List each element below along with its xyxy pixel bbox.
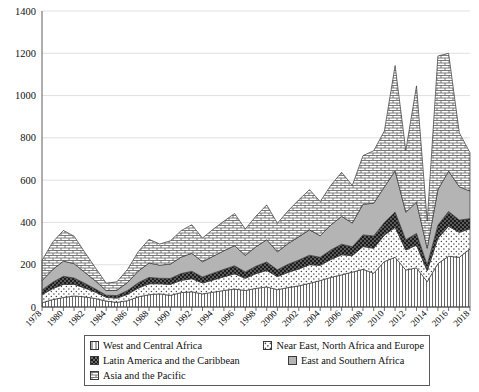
svg-text:2014: 2014: [409, 308, 429, 328]
legend-label: West and Central Africa: [103, 340, 202, 351]
svg-text:2008: 2008: [344, 308, 364, 328]
svg-text:1000: 1000: [15, 90, 36, 101]
svg-text:1994: 1994: [195, 308, 215, 328]
svg-text:600: 600: [20, 175, 36, 186]
svg-text:1200: 1200: [15, 48, 36, 59]
svg-text:200: 200: [20, 259, 36, 270]
svg-text:1992: 1992: [173, 308, 193, 328]
svg-text:1984: 1984: [88, 308, 108, 328]
svg-text:1400: 1400: [15, 6, 36, 17]
legend-item: Asia and the Pacific: [90, 370, 288, 381]
svg-text:2010: 2010: [366, 308, 386, 328]
legend-label: Near East, North Africa and Europe: [276, 340, 424, 351]
svg-text:2016: 2016: [430, 308, 450, 328]
svg-text:2004: 2004: [302, 308, 322, 328]
y-axis-labels: 0200400600800100012001400: [15, 6, 36, 313]
svg-text:2006: 2006: [323, 308, 343, 328]
legend-item: East and Southern Africa: [288, 355, 404, 366]
legend-label: Asia and the Pacific: [103, 370, 186, 381]
svg-text:2012: 2012: [387, 308, 407, 328]
svg-text:1990: 1990: [152, 308, 172, 328]
x-axis-labels: 1978198019821984198619881990199219941996…: [23, 308, 471, 328]
legend-row: Latin America and the CaribbeanEast and …: [90, 353, 424, 368]
chart-canvas: 0200400600800100012001400 19781980198219…: [0, 0, 479, 392]
stacked-area-chart: 0200400600800100012001400 19781980198219…: [0, 0, 479, 392]
svg-text:2018: 2018: [451, 308, 471, 328]
legend-row: West and Central AfricaNear East, North …: [90, 338, 424, 353]
legend-swatch-brick-icon: [90, 371, 99, 380]
svg-text:1980: 1980: [45, 308, 65, 328]
legend-swatch-checker-icon: [90, 356, 99, 365]
svg-text:1982: 1982: [66, 308, 86, 328]
legend-item: West and Central Africa: [90, 340, 263, 351]
svg-text:400: 400: [20, 217, 36, 228]
legend-swatch-solid-grey-icon: [288, 356, 297, 365]
chart-legend: West and Central AfricaNear East, North …: [84, 335, 430, 386]
legend-item: Latin America and the Caribbean: [90, 355, 288, 366]
legend-label: Latin America and the Caribbean: [103, 355, 240, 366]
x-tick-marks: [42, 307, 470, 311]
legend-swatch-dots-icon: [263, 341, 272, 350]
svg-text:2002: 2002: [280, 308, 300, 328]
svg-text:1988: 1988: [130, 308, 150, 328]
svg-text:1978: 1978: [23, 308, 43, 328]
legend-label: East and Southern Africa: [301, 355, 404, 366]
svg-text:1986: 1986: [109, 308, 129, 328]
legend-swatch-vertical-lines-icon: [90, 341, 99, 350]
legend-item: Near East, North Africa and Europe: [263, 340, 424, 351]
svg-text:2000: 2000: [259, 308, 279, 328]
svg-text:1996: 1996: [216, 308, 236, 328]
svg-text:1998: 1998: [237, 308, 257, 328]
svg-text:800: 800: [20, 132, 36, 143]
legend-row: Asia and the Pacific: [90, 368, 424, 383]
